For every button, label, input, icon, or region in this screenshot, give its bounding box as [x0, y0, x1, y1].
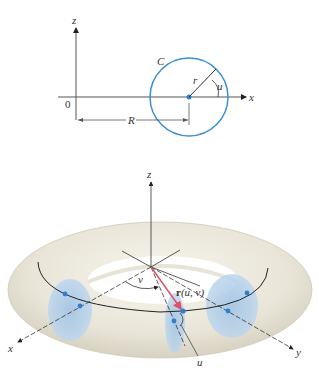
angle-v-label: v	[138, 273, 143, 285]
circle-label: C	[157, 55, 165, 67]
cross-section-figure: z x 0 C r u R	[58, 14, 254, 136]
cross-section-right	[206, 274, 258, 338]
x-axis-label: x	[248, 91, 254, 103]
z-axis-3d-label: z	[146, 168, 152, 180]
distance-r-label: R	[127, 114, 135, 126]
radius-label: r	[193, 74, 198, 86]
angle-u-label: u	[217, 80, 223, 92]
x-axis-3d-label: x	[7, 342, 13, 354]
torus-figure: z x y v r(u, v) u	[7, 168, 312, 368]
origin-label: 0	[65, 98, 71, 110]
angle-u-3d-label: u	[197, 356, 203, 368]
y-axis-3d-label: y	[295, 346, 301, 358]
z-axis-label: z	[71, 14, 77, 26]
torus-diagram: z x 0 C r u R z x	[0, 0, 319, 381]
r-vector-label: r(u, v)	[176, 286, 204, 299]
